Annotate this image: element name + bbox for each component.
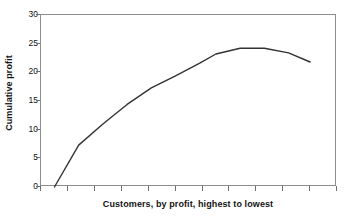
x-axis-title: Customers, by profit, highest to lowest xyxy=(40,199,336,209)
chart-figure: Cumulative profit 30 25 20 15 10 5 0 Cus… xyxy=(0,0,344,222)
y-axis-tick-labels: 30 25 20 15 10 5 0 xyxy=(18,0,38,222)
y-axis-title-text: Cumulative profit xyxy=(4,55,14,131)
data-line-svg xyxy=(40,14,338,188)
cumulative-profit-line xyxy=(54,48,310,187)
plot-area xyxy=(40,14,336,186)
y-axis-title: Cumulative profit xyxy=(0,0,18,186)
